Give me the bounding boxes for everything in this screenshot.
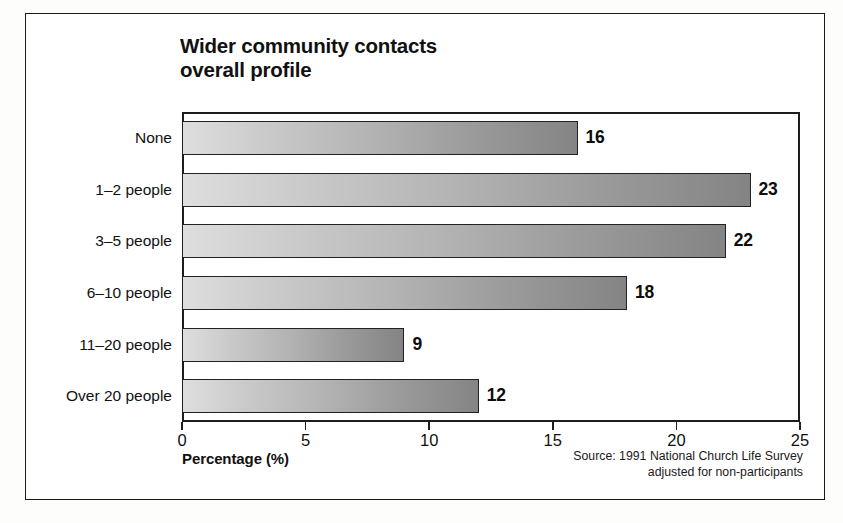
axis-tick: [676, 422, 678, 430]
source-note: Source: 1991 National Church Life Survey…: [573, 448, 803, 480]
bar-value-label: 16: [586, 127, 605, 148]
category-label: Over 20 people: [0, 379, 172, 413]
bar-row: 23: [182, 173, 800, 207]
source-line: Source: 1991 National Church Life Survey: [573, 448, 803, 464]
axis-tick: [428, 422, 430, 430]
value-axis-title: Percentage (%): [182, 450, 289, 467]
bar: [182, 379, 479, 413]
bar-row: 12: [182, 379, 800, 413]
bar-row: 9: [182, 328, 800, 362]
chart-figure: Wider community contacts overall profile…: [0, 0, 843, 523]
bar-value-label: 9: [412, 334, 422, 355]
value-axis: 0510152025: [182, 422, 800, 423]
axis-tick-label: 5: [301, 431, 310, 450]
bar: [182, 121, 578, 155]
bar-row: 16: [182, 121, 800, 155]
bar-row: 18: [182, 276, 800, 310]
axis-tick: [552, 422, 554, 430]
bar: [182, 276, 627, 310]
axis-tick: [799, 422, 801, 430]
chart-title: Wider community contacts overall profile: [180, 34, 437, 82]
bar-value-label: 18: [635, 282, 654, 303]
bar: [182, 224, 726, 258]
bar-value-label: 12: [487, 385, 506, 406]
source-line: adjusted for non-participants: [573, 464, 803, 480]
axis-tick-label: 10: [420, 431, 438, 450]
category-label: 6–10 people: [0, 276, 172, 310]
category-label: 3–5 people: [0, 224, 172, 258]
bar-row: 22: [182, 224, 800, 258]
axis-tick-label: 15: [544, 431, 562, 450]
axis-tick-label: 0: [177, 431, 186, 450]
bar: [182, 173, 751, 207]
category-label: None: [0, 121, 172, 155]
bar: [182, 328, 404, 362]
bar-series: 16232218912: [182, 112, 800, 422]
axis-tick: [181, 422, 183, 430]
bar-value-label: 23: [759, 179, 778, 200]
category-axis-labels: None1–2 people3–5 people6–10 people11–20…: [0, 112, 172, 422]
bar-value-label: 22: [734, 230, 753, 251]
category-label: 1–2 people: [0, 173, 172, 207]
category-label: 11–20 people: [0, 328, 172, 362]
axis-tick: [305, 422, 307, 430]
